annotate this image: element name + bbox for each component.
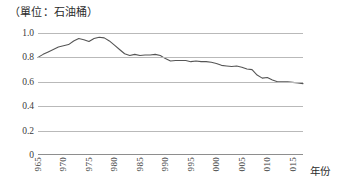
axis-baseline <box>38 154 303 155</box>
x-tick-label: 010 <box>262 157 272 171</box>
gridline <box>38 106 303 107</box>
y-tick-label: 1.0 <box>0 28 34 38</box>
x-tick-label: 970 <box>58 157 68 171</box>
y-tick-label: 0 <box>0 150 34 160</box>
x-tick-label: 975 <box>84 157 94 171</box>
plot-area <box>38 33 303 155</box>
y-tick-label: 0.6 <box>0 77 34 87</box>
x-tick-label: 985 <box>135 157 145 171</box>
line-series <box>38 33 303 155</box>
x-tick-label: 990 <box>160 157 170 171</box>
x-tick-label: 015 <box>288 157 298 171</box>
x-axis: 965970975980985990995000005010015 <box>38 157 303 186</box>
gridline <box>38 33 303 34</box>
x-axis-label: 年份 <box>310 163 330 178</box>
y-tick-label: 0.2 <box>0 126 34 136</box>
chart-screenshot: （單位：石油桶） 00.20.40.60.81.0 96597097598098… <box>0 0 352 186</box>
x-tick-label: 005 <box>237 157 247 171</box>
x-tick-label: 995 <box>186 157 196 171</box>
x-tick-label: 980 <box>109 157 119 171</box>
y-axis: 00.20.40.60.81.0 <box>0 33 34 155</box>
gridline <box>38 57 303 58</box>
gridline <box>38 131 303 132</box>
y-tick-label: 0.4 <box>0 101 34 111</box>
chart-title: （單位：石油桶） <box>9 3 99 19</box>
gridline <box>38 82 303 83</box>
x-tick-label: 965 <box>33 157 43 171</box>
x-tick-label: 000 <box>211 157 221 171</box>
y-tick-label: 0.8 <box>0 52 34 62</box>
